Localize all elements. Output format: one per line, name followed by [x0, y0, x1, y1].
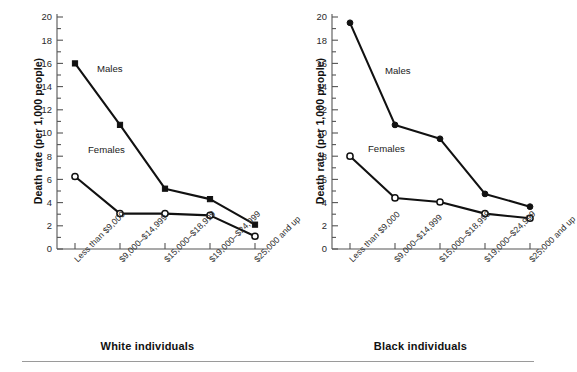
line-chart-white: 02468101214161820MalesFemales — [0, 0, 275, 340]
series-label-females: Females — [368, 143, 405, 154]
svg-text:10: 10 — [317, 127, 327, 138]
svg-text:0: 0 — [47, 243, 52, 254]
chart-panel-black: Death rate (per 1,000 people) 0246810121… — [275, 0, 550, 372]
svg-text:16: 16 — [42, 58, 52, 69]
chart-panel-white: Death rate (per 1,000 people) 0246810121… — [0, 0, 275, 372]
series-label-males: Males — [97, 63, 123, 74]
svg-text:20: 20 — [42, 11, 52, 22]
svg-text:4: 4 — [47, 197, 52, 208]
chart-caption-white: White individuals — [10, 340, 285, 352]
svg-text:20: 20 — [317, 11, 327, 22]
svg-text:12: 12 — [317, 104, 327, 115]
chart-caption-black: Black individuals — [283, 340, 558, 352]
svg-text:14: 14 — [42, 81, 52, 92]
svg-text:14: 14 — [317, 81, 327, 92]
svg-text:6: 6 — [47, 174, 52, 185]
svg-text:0: 0 — [322, 243, 327, 254]
svg-text:18: 18 — [42, 35, 52, 46]
svg-text:18: 18 — [317, 35, 327, 46]
svg-text:16: 16 — [317, 58, 327, 69]
line-chart-black: 02468101214161820MalesFemales — [275, 0, 550, 340]
svg-text:12: 12 — [42, 104, 52, 115]
svg-text:10: 10 — [42, 127, 52, 138]
svg-text:2: 2 — [47, 220, 52, 231]
svg-text:2: 2 — [322, 220, 327, 231]
svg-text:8: 8 — [47, 151, 52, 162]
svg-text:8: 8 — [322, 151, 327, 162]
bottom-divider — [22, 361, 534, 362]
svg-text:4: 4 — [322, 197, 327, 208]
svg-text:6: 6 — [322, 174, 327, 185]
series-label-females: Females — [88, 144, 125, 155]
series-label-males: Males — [385, 65, 411, 76]
